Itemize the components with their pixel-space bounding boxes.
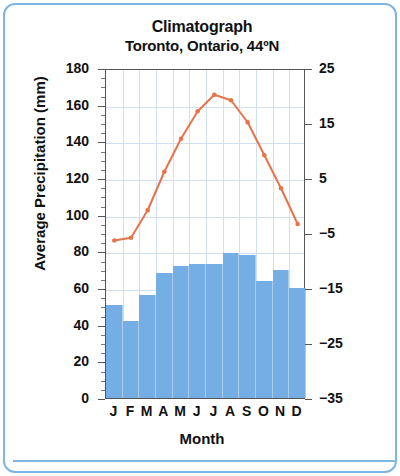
temperature-point-11	[295, 222, 300, 227]
y-label-left: 120	[29, 170, 89, 186]
x-label-11: D	[286, 403, 308, 419]
y-tick-left-minor	[101, 372, 105, 373]
y-tick-left-minor	[101, 225, 105, 226]
temperature-point-10	[279, 186, 284, 191]
y-label-right: 25	[319, 60, 379, 76]
y-tick-left	[98, 399, 105, 400]
temperature-point-2	[145, 208, 150, 213]
y-tick-left	[98, 252, 105, 253]
y-tick-left-minor	[101, 197, 105, 198]
y-tick-left	[98, 106, 105, 107]
y-label-left: 40	[29, 317, 89, 333]
y-label-left: 80	[29, 243, 89, 259]
y-label-left: 140	[29, 133, 89, 149]
y-tick-left-minor	[101, 87, 105, 88]
y-tick-left-minor	[101, 152, 105, 153]
y-tick-left-minor	[101, 115, 105, 116]
chart-title: Climatograph	[5, 17, 399, 36]
y-label-right: 5	[319, 170, 379, 186]
y-tick-left-minor	[101, 188, 105, 189]
y-label-right: −35	[319, 390, 379, 406]
y-tick-left-minor	[101, 161, 105, 162]
y-label-left: 0	[29, 390, 89, 406]
chart-subtitle: Toronto, Ontario, 44ºN	[5, 36, 399, 55]
y-tick-left	[98, 179, 105, 180]
y-tick-left-minor	[101, 390, 105, 391]
y-tick-left	[98, 362, 105, 363]
y-tick-left-minor	[101, 344, 105, 345]
y-tick-left	[98, 326, 105, 327]
temperature-point-1	[129, 235, 134, 240]
y-tick-left-minor	[101, 381, 105, 382]
temperature-point-6	[212, 92, 217, 97]
y-label-left: 160	[29, 97, 89, 113]
y-tick-left	[98, 142, 105, 143]
y-tick-left-minor	[101, 124, 105, 125]
x-axis-title: Month	[5, 430, 399, 447]
y-tick-left-minor	[101, 207, 105, 208]
y-tick-left-minor	[101, 234, 105, 235]
y-tick-left-minor	[101, 317, 105, 318]
y-label-right: 15	[319, 115, 379, 131]
temperature-point-7	[229, 98, 234, 103]
y-tick-right	[305, 69, 312, 70]
y-tick-left-minor	[101, 307, 105, 308]
y-tick-left-minor	[101, 280, 105, 281]
y-tick-right	[305, 124, 312, 125]
temperature-line	[106, 70, 306, 400]
y-tick-left-minor	[101, 298, 105, 299]
plot-area	[105, 69, 305, 399]
y-tick-left	[98, 69, 105, 70]
temperature-point-9	[262, 153, 267, 158]
y-label-left: 20	[29, 353, 89, 369]
y-tick-left-minor	[101, 78, 105, 79]
y-tick-left-minor	[101, 262, 105, 263]
y-tick-left-minor	[101, 243, 105, 244]
y-label-left: 60	[29, 280, 89, 296]
temperature-point-0	[112, 238, 117, 243]
y-label-left: 100	[29, 207, 89, 223]
y-label-right: −15	[319, 280, 379, 296]
y-tick-right	[305, 179, 312, 180]
climatograph-card: Climatograph Toronto, Ontario, 44ºN Aver…	[3, 3, 397, 473]
y-tick-left-minor	[101, 353, 105, 354]
bottom-divider	[13, 460, 397, 462]
y-tick-left	[98, 289, 105, 290]
y-tick-left-minor	[101, 170, 105, 171]
y-label-right: −5	[319, 225, 379, 241]
y-tick-right	[305, 399, 312, 400]
y-tick-right	[305, 344, 312, 345]
y-tick-left-minor	[101, 133, 105, 134]
temperature-point-3	[162, 169, 167, 174]
temperature-point-4	[179, 136, 184, 141]
y-tick-left-minor	[101, 335, 105, 336]
y-tick-left	[98, 216, 105, 217]
y-tick-left-minor	[101, 271, 105, 272]
y-label-right: −25	[319, 335, 379, 351]
temperature-point-8	[245, 120, 250, 125]
temperature-polyline	[114, 95, 297, 241]
y-tick-right	[305, 234, 312, 235]
temperature-point-5	[195, 109, 200, 114]
y-tick-right	[305, 289, 312, 290]
y-label-left: 180	[29, 60, 89, 76]
y-tick-left-minor	[101, 97, 105, 98]
